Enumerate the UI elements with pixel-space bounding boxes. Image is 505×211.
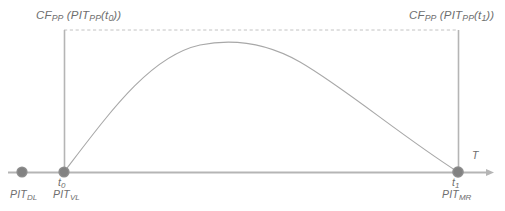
diagram-canvas [0, 0, 505, 211]
label-pit-mr: PITMR [442, 189, 471, 202]
label-axis-t: T [472, 150, 478, 161]
label-cf-pp-t1: CFPP (PITPP(t1)) [409, 10, 494, 23]
cf-right-main-sub: PP [425, 13, 437, 23]
cf-right-main: CF [409, 9, 425, 21]
cash-flow-diagram: CFPP (PITPP(t0)) CFPP (PITPP(t1)) t0 t1 … [0, 0, 505, 211]
marker-pit-dl [16, 166, 27, 177]
cf-left-arg-sub: PP [89, 13, 101, 23]
label-pit-vl: PITVL [53, 189, 80, 202]
cf-left-main-sub: PP [52, 13, 64, 23]
time-axis-arrowhead [486, 169, 494, 176]
label-cf-pp-t0: CFPP (PITPP(t0)) [36, 10, 121, 23]
cf-right-close: )) [486, 9, 494, 21]
pit-vl-sub: VL [70, 193, 80, 202]
cash-flow-curve [64, 42, 458, 172]
pit-mr-sub: MR [459, 193, 471, 202]
cf-left-main: CF [36, 9, 52, 21]
cf-left-arg: PIT [71, 9, 90, 21]
pit-vl-base: PIT [53, 188, 70, 200]
cf-right-arg-open: ( [436, 9, 443, 21]
cf-left-close: )) [113, 9, 121, 21]
label-pit-dl: PITDL [10, 189, 37, 202]
pit-mr-base: PIT [442, 188, 459, 200]
cf-left-arg-open: ( [63, 9, 70, 21]
pit-dl-sub: DL [27, 193, 37, 202]
cf-right-arg-sub: PP [462, 13, 474, 23]
pit-dl-base: PIT [10, 188, 27, 200]
cf-right-arg: PIT [444, 9, 463, 21]
